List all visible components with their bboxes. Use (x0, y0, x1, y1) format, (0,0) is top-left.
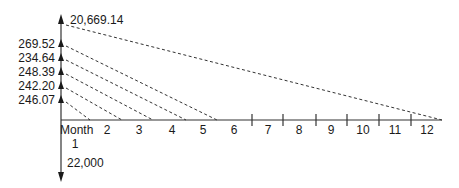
initial-outflow-down-arrow-icon (58, 172, 64, 182)
period-label: 9 (328, 123, 335, 137)
payment-discount-line (66, 88, 122, 120)
period-label: 2 (104, 123, 111, 137)
period-label: 6 (231, 123, 238, 137)
period-label: 10 (356, 123, 370, 137)
payment-discount-line (66, 60, 186, 120)
initial-outflow-label: 22,000 (67, 156, 104, 170)
period-label: 11 (389, 123, 402, 137)
payment-label: 248.39 (18, 65, 55, 79)
time-unit-label: Month (60, 123, 93, 137)
cash-flow-diagram: 20,669.14 269.52 234.64 248.39 242.20 24… (0, 0, 459, 188)
payment-arrow-icon (58, 95, 64, 103)
period-label: 8 (296, 123, 303, 137)
payment-arrow-icon (58, 39, 64, 47)
payment-label: 234.64 (18, 51, 55, 65)
period-label: 1 (72, 137, 79, 151)
payment-arrow-icon (58, 67, 64, 75)
present-value-label: 20,669.14 (70, 13, 124, 27)
period-label: 5 (200, 123, 207, 137)
period-label: 3 (136, 123, 143, 137)
payment-label: 246.07 (18, 93, 55, 107)
payment-arrow-icon (58, 53, 64, 61)
payment-label: 269.52 (18, 37, 55, 51)
period-label: 7 (265, 123, 272, 137)
present-value-up-arrow-icon (58, 14, 64, 24)
period-label: 12 (420, 123, 434, 137)
present-value-discount-line (66, 25, 442, 120)
payment-discount-line (66, 102, 90, 120)
payment-label: 242.20 (18, 79, 55, 93)
payment-arrow-icon (58, 81, 64, 89)
period-label: 4 (169, 123, 176, 137)
